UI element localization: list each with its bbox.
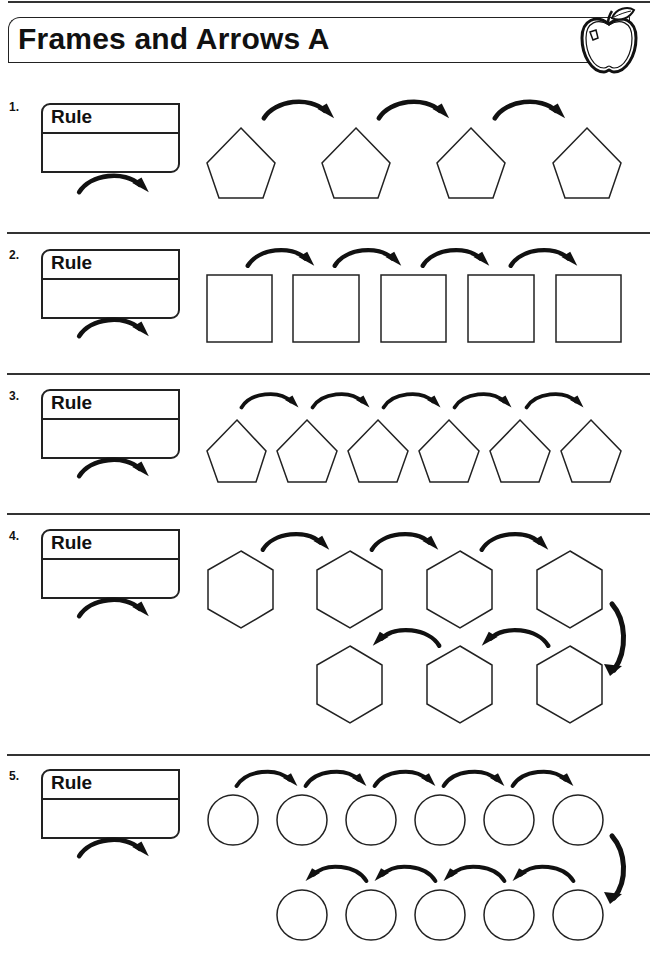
arrow-right-icon [263, 534, 330, 550]
arrow-right-icon [242, 394, 299, 407]
arrow-right-icon [482, 534, 549, 550]
circle-frame [346, 795, 396, 845]
circle-frame [277, 890, 327, 940]
circle-frame [277, 795, 327, 845]
arrow-right-icon [248, 250, 315, 266]
pentagon-frame [277, 420, 337, 482]
pentagon-frame [490, 420, 550, 482]
rule-arrow-icon [79, 176, 149, 856]
pentagon-frame [207, 128, 275, 198]
hexagon-frame [537, 551, 602, 628]
frames-problem-3 [207, 420, 621, 482]
arrow-right-icon [375, 772, 436, 786]
arrow-right-icon [444, 772, 505, 786]
square-frame [468, 275, 534, 342]
circle-frame [553, 890, 603, 940]
circle-frame [484, 890, 534, 940]
arrow-down-icon [604, 604, 624, 676]
circle-frame [415, 890, 465, 940]
circle-frame [208, 795, 258, 845]
circle-frame [415, 795, 465, 845]
hexagon-frame [208, 551, 273, 628]
arrows-problem-1 [264, 102, 565, 119]
pentagon-frame [348, 420, 408, 482]
arrow-left-icon [375, 867, 436, 881]
arrow-left-icon [444, 867, 505, 881]
arrow-right-icon [313, 394, 370, 407]
arrow-left-icon [482, 630, 549, 646]
arrow-right-icon [372, 534, 439, 550]
square-frame [207, 275, 272, 342]
arrow-right-icon [264, 102, 334, 119]
pentagon-frame [553, 128, 621, 198]
pentagon-frame [419, 420, 479, 482]
frames-problem-2 [207, 275, 621, 342]
hexagon-frame [427, 646, 492, 723]
arrow-right-icon [379, 102, 449, 119]
arrow-right-icon [513, 772, 574, 786]
hexagon-frame [427, 551, 492, 628]
circle-frame [484, 795, 534, 845]
hexagon-frame [317, 646, 382, 723]
arrow-left-icon [306, 867, 367, 881]
arrow-right-icon [384, 394, 441, 407]
hexagon-frame [317, 551, 382, 628]
arrows-problem-3 [242, 394, 584, 407]
square-frame [293, 275, 359, 342]
arrow-right-icon [511, 250, 578, 266]
arrows-problem-2 [248, 250, 578, 266]
frames-problem-1 [207, 128, 621, 198]
circle-frame [346, 890, 396, 940]
pentagon-frame [437, 128, 505, 198]
arrow-right-icon [527, 394, 584, 407]
arrow-left-icon [373, 630, 440, 646]
arrow-left-icon [513, 867, 574, 881]
pentagon-frame [322, 128, 390, 198]
hexagon-frame [537, 646, 602, 723]
arrow-right-icon [423, 250, 490, 266]
arrow-right-icon [495, 102, 565, 119]
arrow-right-icon [455, 394, 512, 407]
pentagon-frame [561, 420, 621, 482]
arrow-right-icon [237, 772, 298, 786]
square-frame [556, 275, 621, 342]
worksheet-drawing [0, 0, 658, 960]
arrow-right-icon [335, 250, 402, 266]
circle-frame [553, 795, 603, 845]
square-frame [381, 275, 446, 342]
arrow-right-icon [306, 772, 367, 786]
pentagon-frame [207, 420, 266, 482]
arrow-down-icon [604, 836, 624, 904]
